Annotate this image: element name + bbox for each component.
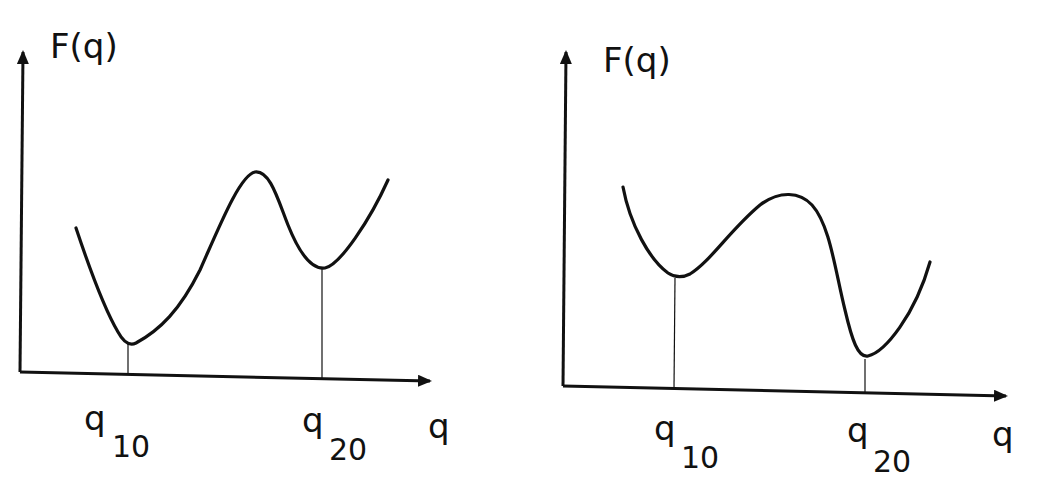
left-panel: F(q) q q 10 q 20 <box>20 26 450 467</box>
right-y-axis <box>563 52 566 386</box>
left-y-axis <box>20 52 23 372</box>
left-q20-label: q <box>302 400 324 440</box>
right-q10-dropline <box>674 278 675 388</box>
left-q10-subscript: 10 <box>112 429 150 464</box>
left-y-axis-label: F(q) <box>50 26 118 66</box>
figure-canvas: F(q) q q 10 q 20 F(q) q q 10 q 20 <box>0 0 1041 497</box>
right-potential-curve <box>623 187 930 356</box>
left-q20-subscript: 20 <box>329 432 367 467</box>
right-x-axis <box>563 386 1006 396</box>
right-y-axis-label: F(q) <box>603 40 671 80</box>
left-q10-label: q <box>84 398 106 438</box>
left-x-axis-label: q <box>428 406 450 446</box>
right-q10-subscript: 10 <box>681 440 719 475</box>
right-q20-label: q <box>847 410 869 450</box>
right-x-axis-label: q <box>992 414 1014 454</box>
left-potential-curve <box>76 172 388 344</box>
right-q20-subscript: 20 <box>873 444 911 479</box>
left-x-axis <box>20 372 430 381</box>
right-q10-label: q <box>654 408 676 448</box>
right-panel: F(q) q q 10 q 20 <box>563 40 1014 479</box>
